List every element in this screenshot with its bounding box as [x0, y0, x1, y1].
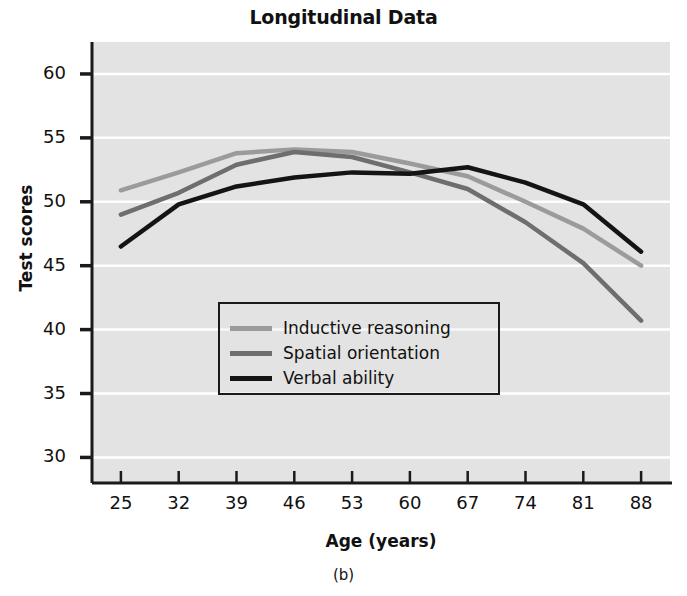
legend-line-swatch — [230, 351, 272, 356]
legend-line-swatch — [230, 376, 272, 381]
y-tick-label: 60 — [16, 62, 66, 83]
y-tick-label: 30 — [16, 445, 66, 466]
legend-label: Verbal ability — [283, 368, 394, 388]
x-tick-label: 53 — [327, 492, 377, 513]
figure-longitudinal-data: Longitudinal Data Test scores Age (years… — [0, 0, 687, 596]
y-tick-label: 35 — [16, 382, 66, 403]
y-tick-label: 40 — [16, 318, 66, 339]
x-tick-label: 46 — [269, 492, 319, 513]
y-tick-label: 50 — [16, 190, 66, 211]
legend-label: Inductive reasoning — [283, 318, 451, 338]
x-tick-label: 81 — [558, 492, 608, 513]
x-tick-label: 39 — [212, 492, 262, 513]
legend-line-swatch — [230, 326, 272, 331]
legend-item: Verbal ability — [230, 366, 394, 390]
x-tick-label: 88 — [616, 492, 666, 513]
x-tick-label: 60 — [385, 492, 435, 513]
y-tick-label: 45 — [16, 254, 66, 275]
x-tick-label: 74 — [501, 492, 551, 513]
x-tick-label: 25 — [96, 492, 146, 513]
x-tick-label: 32 — [154, 492, 204, 513]
legend: Inductive reasoningSpatial orientationVe… — [218, 302, 500, 395]
legend-item: Spatial orientation — [230, 341, 440, 365]
x-tick-label: 67 — [443, 492, 493, 513]
legend-item: Inductive reasoning — [230, 316, 451, 340]
legend-label: Spatial orientation — [283, 343, 440, 363]
y-tick-label: 55 — [16, 126, 66, 147]
